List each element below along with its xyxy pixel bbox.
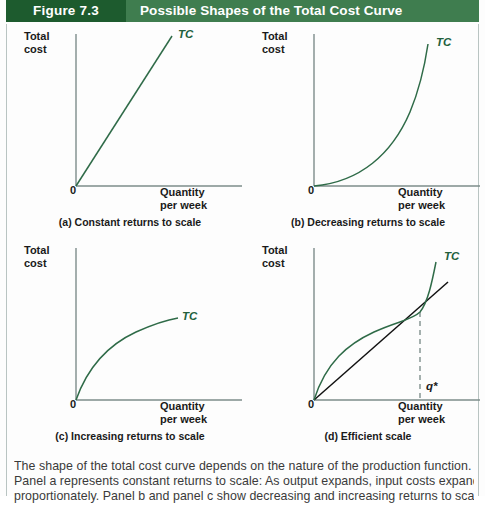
tc-label-d: TC (444, 250, 459, 262)
figure-title: Possible Shapes of the Total Cost Curve (140, 0, 402, 22)
y-axis-label-a: Total cost (24, 30, 74, 55)
x-axis-label-d: Quantity per week (398, 400, 484, 425)
panel-b: Total cost 0 Quantity per week TC (b) De… (252, 26, 484, 238)
panel-d: Total cost 0 Quantity per week q* TC (d)… (252, 240, 484, 452)
panel-c-caption: (c) Increasing returns to scale (14, 430, 246, 442)
tc-label-c: TC (182, 310, 197, 322)
x-axis-label-b: Quantity per week (398, 186, 484, 211)
panel-c: Total cost 0 Quantity per week TC (c) In… (14, 240, 246, 452)
y-axis-label-c: Total cost (24, 244, 74, 269)
panel-a: Total cost 0 Quantity per week TC (a) Co… (14, 26, 246, 238)
origin-label-c: 0 (70, 398, 76, 410)
left-page-rule (6, 24, 7, 496)
panel-d-caption: (d) Efficient scale (252, 430, 484, 442)
origin-label-a: 0 (70, 184, 76, 196)
description-line-1: The shape of the total cost curve depend… (14, 459, 474, 474)
figure-header: Figure 7.3 Possible Shapes of the Total … (6, 0, 479, 24)
tc-curve-c (76, 318, 178, 400)
x-axis-label-a: Quantity per week (160, 186, 246, 211)
y-axis-label-d: Total cost (262, 244, 312, 269)
figure-description: The shape of the total cost curve depend… (14, 459, 474, 505)
tc-label-b: TC (436, 36, 451, 48)
y-axis-label-b: Total cost (262, 30, 312, 55)
x-axis-label-c: Quantity per week (160, 400, 246, 425)
q-star-label: q* (426, 380, 438, 392)
tc-curve-d (314, 262, 436, 400)
description-line-3: proportionately. Panel b and panel c sho… (14, 489, 474, 504)
origin-label-d: 0 (308, 398, 314, 410)
tc-curve-a (76, 36, 172, 186)
tc-curve-b (314, 44, 428, 186)
figure-number-label: Figure 7.3 (6, 0, 126, 22)
origin-label-b: 0 (308, 184, 314, 196)
panel-b-caption: (b) Decreasing returns to scale (252, 216, 484, 228)
panel-a-caption: (a) Constant returns to scale (14, 216, 246, 228)
description-line-2: Panel a represents constant returns to s… (14, 474, 474, 489)
tc-label-a: TC (178, 28, 193, 40)
